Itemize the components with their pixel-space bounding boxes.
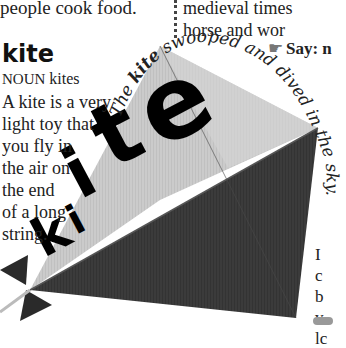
definition-line: the air on: [2, 157, 106, 179]
previous-entry-tail: people cook food.: [0, 0, 137, 19]
definition-line: the end: [2, 179, 106, 201]
say-label: Say: n: [286, 39, 332, 58]
part-of-speech: NOUN: [2, 71, 45, 87]
plural-form: kites: [49, 70, 79, 87]
fragment-line: b: [315, 286, 327, 307]
fragment-line: c: [315, 265, 327, 286]
right-column-line: medieval times: [183, 0, 292, 19]
right-column-fragment: I c b v lc: [315, 244, 327, 348]
say-pronunciation: ☛Say: n: [268, 38, 332, 59]
definition-line: light toy that: [2, 113, 106, 135]
dotted-divider: [174, 0, 181, 38]
pointing-hand-icon: ☛: [268, 39, 283, 58]
definition-line: of a long: [2, 201, 106, 223]
definition-line: you fly in: [2, 135, 106, 157]
pointing-hand-icon: [313, 317, 333, 325]
part-of-speech-line: NOUN kites: [2, 70, 80, 88]
right-column-text: medieval times horse and wor: [183, 0, 292, 41]
fragment-line: I: [315, 244, 327, 265]
headword: kite: [2, 40, 54, 68]
fragment-line: lc: [315, 328, 327, 348]
definition-line: string.: [2, 223, 106, 245]
definition-line: A kite is a very: [2, 91, 106, 113]
definition: A kite is a very light toy that you fly …: [2, 91, 106, 245]
kite-tail-bow-left: [0, 255, 28, 285]
